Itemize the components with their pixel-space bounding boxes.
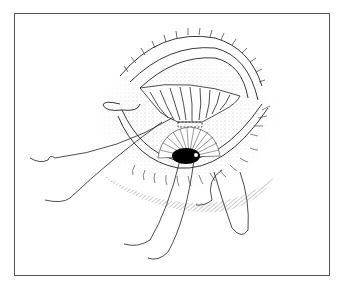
light-reflex (194, 153, 198, 157)
eye-surgery-illustration (0, 0, 343, 282)
